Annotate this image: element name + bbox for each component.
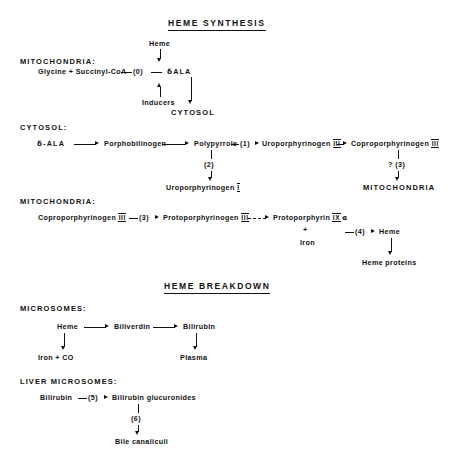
step-label-question-3: ? (3) [388,160,405,169]
heme-synthesis-title: HEME SYNTHESIS [168,18,266,31]
arrow-pbg-to-polypyrrole-head [185,141,189,145]
node-bile-canaliculi: Bile canaliculi [115,437,168,446]
branch-coprogen-shaft-upper [398,150,399,159]
node-heme-product: Heme [379,227,400,236]
branch-polypyrrole-head [208,177,212,181]
node-uroporphyrinogen-iii: UroporphyrinogenIII [262,139,341,148]
arrow-heme-to-heme-proteins-shaft [391,238,392,252]
arrow-ala-to-cytosol-shaft [191,77,192,101]
node-mitochondria-destination: MITOCHONDRIA [363,183,435,192]
branch-polypyrrole-shaft-upper [211,150,212,159]
branch-glucuronides-shaft-upper [138,404,139,413]
arrow-step3-to-protogen-head [155,215,159,219]
arrow-heme-to-ironco-shaft [64,333,65,347]
node-iron: Iron [300,238,315,247]
plus-sign-iron: + [303,225,308,234]
step-label-6: (6) [131,414,141,423]
alpha-symbol: α [342,214,347,222]
branch-coprogen-head [395,177,399,181]
node-heme-proteins: Heme proteins [362,258,416,267]
connector-bilirubin-to-step5 [78,398,87,399]
node-coproporphyrinogen-iii-cytosol: CoproporphyrinogenIII [351,139,439,148]
connector-substrates-to-step0 [121,72,132,73]
compartment-label-mitochondria-2: MITOCHONDRIA: [20,197,96,206]
arrow-heme-to-step0-head [157,58,161,62]
node-heme-breakdown: Heme [57,322,78,331]
heme-breakdown-title: HEME BREAKDOWN [164,281,270,294]
step-label-4: (4) [355,227,365,236]
arrow-protogen-to-proto-dashed-shaft [248,218,266,219]
arrow-ala-to-cytosol-head [188,100,192,104]
node-protoporphyrinogen-iii: ProtoporphyrinogenIII [163,213,249,222]
arrow-inducers-to-step0-head [157,83,161,87]
arrow-heme-to-heme-proteins-head [388,251,392,255]
node-coproporphyrinogen-iii-mito: CoproporphyrinogenIII [38,213,126,222]
node-uroporphyrinogen-i: UroporphyrinogenI [166,183,240,192]
node-bilirubin-liver: Bilirubin [40,393,72,402]
arrow-bilirubin-to-plasma-head [193,346,197,350]
arrow-biliverdin-to-bilirubin-shaft [153,327,175,328]
arrow-step4-to-heme-head [371,229,375,233]
arrow-ala-to-pbg-shaft [74,144,96,145]
arrow-pbg-to-polypyrrole-shaft [162,144,186,145]
arrow-ala-to-pbg-head [95,141,99,145]
compartment-label-cytosol: CYTOSOL: [20,123,67,132]
roman-numeral-ix: IX [332,213,340,222]
node-protoporphyrin-ix-alpha: ProtoporphyrinIXα [273,213,347,222]
node-biliverdin: Biliverdin [114,322,150,331]
node-bilirubin-glucuronides: Bilirubin glucuronides [112,393,196,402]
connector-coprogen-to-step3 [129,218,138,219]
node-cytosol-destination: CYTOSOL [171,108,215,117]
node-plasma: Plasma [180,353,207,362]
roman-numeral-iii-c: III [118,213,126,222]
node-delta-ala-product: δALA [167,67,192,76]
arrow-inducers-to-step0-shaft [160,87,161,97]
node-heme-feedback: Heme [149,39,170,48]
node-porphobilinogen: Porphobilinogen [104,139,166,148]
branch-glucuronides-head [135,431,139,435]
arrow-urogen3-to-coprogen3-head [343,141,347,145]
step-label-3: (3) [139,213,149,222]
step-label-0: (0) [133,67,143,76]
arrow-step1-to-urogen3-head [255,141,259,145]
step-label-5: (5) [88,393,98,402]
roman-numeral-i: I [237,183,240,192]
arrow-protogen-to-proto-dashed-head [265,215,269,219]
roman-numeral-iii-b: III [431,139,439,148]
node-glycine-succinyl-coa: Glycine + Succinyl-CoA [38,67,127,76]
node-inducers: Inducers [142,98,175,107]
compartment-label-mitochondria-1: MITOCHONDRIA: [20,57,96,66]
arrow-heme-to-ironco-head [61,346,65,350]
connector-polypyrrole-to-step1 [231,144,239,145]
arrow-step5-to-glucuronides-head [104,395,108,399]
arrow-bilirubin-to-plasma-shaft [196,333,197,347]
node-iron-co: Iron + CO [38,353,74,362]
arrow-biliverdin-to-bilirubin-head [174,324,178,328]
node-bilirubin: Bilirubin [183,322,215,331]
step-label-2: (2) [204,160,214,169]
compartment-label-microsomes: MICROSOMES: [20,304,87,313]
arrow-heme-to-biliverdin-head [105,324,109,328]
connector-step0-to-ala [151,72,162,73]
step-label-1: (1) [240,139,250,148]
connector-to-step4 [345,232,354,233]
arrow-heme-to-biliverdin-shaft [84,327,106,328]
compartment-label-liver-microsomes: LIVER MICROSOMES: [20,377,117,386]
node-delta-ala-start: δ-ALA [37,139,65,148]
